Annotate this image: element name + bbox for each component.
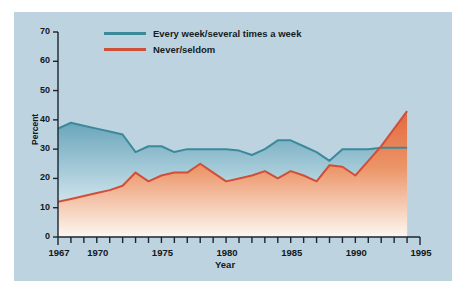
x-axis-ticks xyxy=(58,237,420,245)
y-tick-label: 20 xyxy=(28,172,50,182)
legend-label: Never/seldom xyxy=(153,44,215,55)
legend-item-0[interactable]: Every week/several times a week xyxy=(104,28,301,39)
y-tick-label: 60 xyxy=(28,55,50,65)
x-tick-label: 1995 xyxy=(408,247,434,258)
y-axis-ticks xyxy=(53,32,58,237)
x-axis-title: Year xyxy=(215,259,235,270)
y-tick-label: 50 xyxy=(28,85,50,95)
legend-swatch-icon xyxy=(104,32,146,35)
x-tick-label: 1967 xyxy=(46,247,72,258)
legend-item-1[interactable]: Never/seldom xyxy=(104,44,215,55)
y-axis-title: Percent xyxy=(30,114,40,145)
chart-page: 010203040506070 196719701975198019851990… xyxy=(0,0,467,296)
y-tick-label: 70 xyxy=(28,26,50,36)
y-tick-label: 10 xyxy=(28,202,50,212)
x-tick-label: 1980 xyxy=(214,247,240,258)
x-tick-label: 1970 xyxy=(85,247,111,258)
x-tick-label: 1990 xyxy=(343,247,369,258)
legend-label: Every week/several times a week xyxy=(153,28,301,39)
legend-swatch-icon xyxy=(104,48,146,51)
x-tick-label: 1985 xyxy=(279,247,305,258)
x-tick-label: 1975 xyxy=(149,247,175,258)
area-line-chart xyxy=(14,12,452,281)
y-tick-label: 0 xyxy=(28,231,50,241)
chart-panel: 010203040506070 196719701975198019851990… xyxy=(14,12,452,281)
